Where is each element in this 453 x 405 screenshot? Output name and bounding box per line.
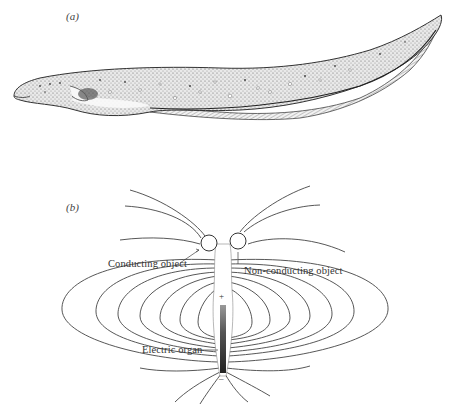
electric-organ-label: Electric organ [142, 344, 202, 355]
non-conducting-object-label: Non-conducting object [244, 265, 343, 276]
positive-pole-label: + [219, 291, 224, 301]
conducting-object-label: Conducting object [108, 258, 187, 269]
non-conducting-object [230, 233, 246, 249]
conducting-object [201, 235, 217, 251]
electric-field-diagram [0, 0, 453, 405]
electric-organ [220, 305, 226, 373]
negative-pole-label: – [219, 373, 224, 383]
